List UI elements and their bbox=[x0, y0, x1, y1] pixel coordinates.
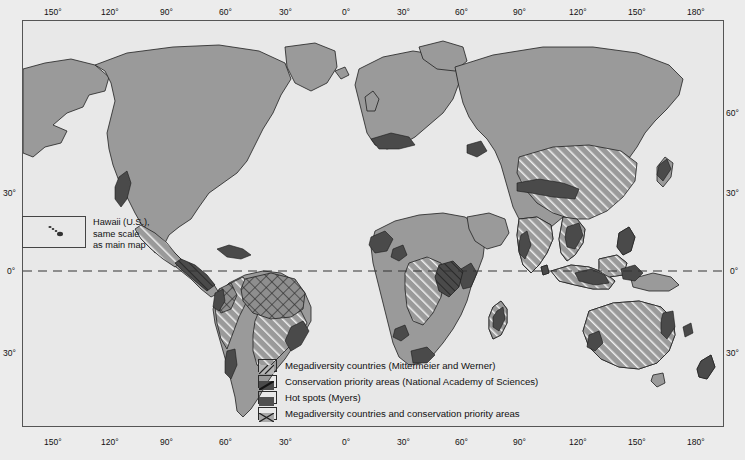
legend-swatch-cross-hatch bbox=[258, 407, 277, 420]
legend-item-hot-spots: Hot spots (Myers) bbox=[258, 390, 658, 405]
top-tick-label: 120° bbox=[101, 7, 119, 17]
bottom-tick-label: 120° bbox=[101, 437, 119, 447]
legend-swatch-solid-dark bbox=[258, 391, 277, 404]
top-tick-label: 60° bbox=[455, 7, 468, 17]
bottom-tick-label: 150° bbox=[628, 437, 646, 447]
bottom-tick-label: 30° bbox=[397, 437, 410, 447]
top-tick-label: 30° bbox=[279, 7, 292, 17]
bottom-tick-label: 120° bbox=[569, 437, 587, 447]
legend-swatch-diagonal-hatch bbox=[258, 359, 277, 372]
right-tick-label: 30° bbox=[726, 188, 739, 198]
top-tick-label: 30° bbox=[397, 7, 410, 17]
diagonal-hatch-icon bbox=[259, 365, 274, 374]
legend-label: Conservation priority areas (National Ac… bbox=[285, 376, 538, 387]
bottom-tick-label: 0° bbox=[342, 437, 350, 447]
hawaii-inset-label: Hawaii (U.S.), same scale as main map bbox=[93, 216, 150, 252]
hawaii-island-dot bbox=[48, 226, 51, 228]
top-tick-label: 90° bbox=[513, 7, 526, 17]
hawaii-island-dot bbox=[52, 228, 55, 230]
legend-item-conservation-priority: Conservation priority areas (National Ac… bbox=[258, 374, 658, 389]
bottom-tick-label: 180° bbox=[687, 437, 705, 447]
top-tick-label: 150° bbox=[628, 7, 646, 17]
right-tick-label: 60° bbox=[726, 108, 739, 118]
left-tick-label: 30° bbox=[3, 348, 16, 358]
legend-label: Megadiversity countries (Mittermeier and… bbox=[285, 360, 495, 371]
bottom-tick-label: 150° bbox=[44, 437, 62, 447]
hawaii-islands-svg bbox=[23, 217, 85, 247]
top-tick-label: 120° bbox=[569, 7, 587, 17]
legend-item-combined: Megadiversity countries and conservation… bbox=[258, 406, 658, 421]
right-tick-label: 30° bbox=[726, 348, 739, 358]
legend-swatch-dark-diagonal bbox=[258, 375, 277, 388]
legend-label: Megadiversity countries and conservation… bbox=[285, 408, 520, 419]
legend-label: Hot spots (Myers) bbox=[285, 392, 361, 403]
top-tick-label: 0° bbox=[342, 7, 350, 17]
hawaii-inset-box bbox=[22, 216, 86, 248]
legend-item-megadiversity: Megadiversity countries (Mittermeier and… bbox=[258, 358, 658, 373]
top-tick-label: 60° bbox=[219, 7, 232, 17]
cross-hatch-icon bbox=[259, 413, 274, 422]
hawaii-island-dot bbox=[55, 230, 58, 232]
top-tick-label: 90° bbox=[160, 7, 173, 17]
world-map-figure: 150° 120° 90° 60° 30° 0° 30° 60° 90° 120… bbox=[0, 0, 745, 460]
bottom-tick-label: 90° bbox=[160, 437, 173, 447]
hawaii-inset: Hawaii (U.S.), same scale as main map bbox=[22, 216, 150, 252]
bottom-tick-label: 90° bbox=[513, 437, 526, 447]
hawaii-big-island bbox=[57, 232, 63, 236]
left-tick-label: 0° bbox=[7, 266, 15, 276]
top-tick-label: 150° bbox=[44, 7, 62, 17]
map-legend: Megadiversity countries (Mittermeier and… bbox=[258, 358, 658, 422]
bottom-tick-label: 60° bbox=[455, 437, 468, 447]
left-tick-label: 30° bbox=[3, 188, 16, 198]
bottom-tick-label: 60° bbox=[219, 437, 232, 447]
right-tick-label: 0° bbox=[730, 266, 738, 276]
top-tick-label: 180° bbox=[687, 7, 705, 17]
solid-dark-icon bbox=[259, 397, 274, 406]
dark-diagonal-icon bbox=[259, 381, 274, 390]
bottom-tick-label: 30° bbox=[279, 437, 292, 447]
